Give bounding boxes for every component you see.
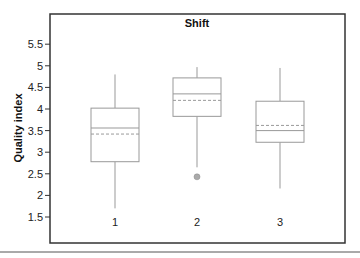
y-axis-ticks: 1.522.533.544.555.5	[28, 38, 50, 223]
outlier-point	[194, 174, 200, 180]
x-category-labels: 123	[112, 216, 283, 228]
y-tick-label: 5	[37, 60, 43, 72]
y-tick-label: 3.5	[28, 125, 43, 137]
iqr-box	[256, 101, 304, 142]
category-label: 2	[194, 216, 200, 228]
y-tick-label: 5.5	[28, 38, 43, 50]
y-tick-label: 4	[37, 103, 43, 115]
y-tick-label: 4.5	[28, 81, 43, 93]
iqr-box	[173, 78, 221, 116]
boxes	[91, 67, 304, 208]
iqr-box	[91, 108, 139, 162]
y-tick-label: 2.5	[28, 168, 43, 180]
category-label: 3	[277, 216, 283, 228]
y-axis-label: Quality index	[12, 93, 24, 163]
box-3	[256, 68, 304, 189]
box-plot-chart: Shift Quality index 1.522.533.544.555.5 …	[0, 0, 360, 258]
y-tick-label: 2	[37, 189, 43, 201]
y-tick-label: 3	[37, 146, 43, 158]
y-tick-label: 1.5	[28, 211, 43, 223]
category-label: 1	[112, 216, 118, 228]
chart-title: Shift	[185, 17, 210, 29]
box-2	[173, 67, 221, 180]
box-1	[91, 74, 139, 208]
